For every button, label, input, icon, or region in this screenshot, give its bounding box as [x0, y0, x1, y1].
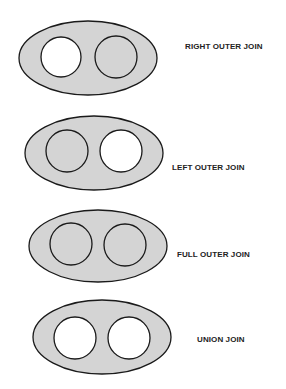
right-outer-join-label: RIGHT OUTER JOIN: [185, 42, 263, 51]
full-outer-join-diagram: [29, 210, 167, 282]
right-circle: [100, 130, 142, 172]
left-outer-join-label: LEFT OUTER JOIN: [172, 163, 245, 172]
right-circle: [108, 317, 150, 359]
right-circle: [104, 224, 146, 266]
left-circle: [46, 130, 88, 172]
right-circle: [95, 36, 137, 78]
left-circle: [54, 317, 96, 359]
right-outer-join-diagram: [19, 21, 157, 95]
left-circle: [41, 37, 81, 77]
full-outer-join-label: FULL OUTER JOIN: [177, 250, 250, 259]
union-join-diagram: [33, 300, 171, 374]
left-circle: [50, 223, 92, 265]
left-outer-join-diagram: [25, 116, 163, 190]
join-diagrams: [0, 0, 286, 389]
union-join-label: UNION JOIN: [197, 335, 245, 344]
